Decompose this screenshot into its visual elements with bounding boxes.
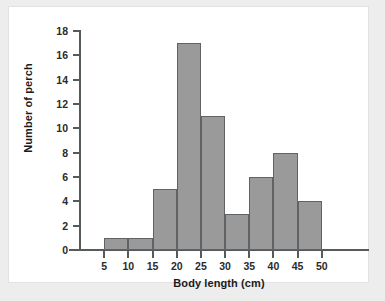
histogram-bar [153, 189, 177, 250]
y-tick-mark [73, 103, 80, 105]
histogram-bar [104, 238, 128, 250]
y-tick-label: 4 [28, 196, 68, 206]
y-tick-mark [73, 249, 80, 251]
figure: 024681012141618 5101520253035404550 Body… [0, 0, 385, 301]
x-tick-mark [297, 251, 299, 258]
x-tick-mark [248, 251, 250, 258]
histogram-bar [249, 177, 273, 250]
histogram-bar [128, 238, 152, 250]
y-tick-mark [73, 79, 80, 81]
y-tick-label: 16 [28, 50, 68, 60]
plot-area [80, 31, 346, 250]
y-tick-mark [73, 152, 80, 154]
x-tick-mark [152, 251, 154, 258]
y-tick-mark [73, 176, 80, 178]
y-tick-mark [73, 200, 80, 202]
y-tick-label: 8 [28, 148, 68, 158]
x-tick-mark [103, 251, 105, 258]
y-tick-mark [73, 54, 80, 56]
x-tick-mark [200, 251, 202, 258]
y-tick-label: 2 [28, 221, 68, 231]
y-tick-label: 18 [28, 26, 68, 36]
x-tick-label: 50 [302, 261, 342, 272]
y-tick-mark [73, 225, 80, 227]
x-tick-mark [127, 251, 129, 258]
y-tick-label: 10 [28, 123, 68, 133]
y-tick-mark [73, 30, 80, 32]
x-tick-mark [176, 251, 178, 258]
histogram-bar [177, 43, 201, 250]
y-tick-label: 12 [28, 99, 68, 109]
x-axis-title: Body length (cm) [69, 277, 369, 289]
y-tick-mark [73, 127, 80, 129]
y-tick-label: 6 [28, 172, 68, 182]
y-tick-label: 14 [28, 75, 68, 85]
x-tick-mark [272, 251, 274, 258]
histogram-bar [225, 214, 249, 251]
histogram-bar [273, 153, 297, 250]
histogram-bar [201, 116, 225, 250]
x-tick-mark [224, 251, 226, 258]
chart-panel: 024681012141618 5101520253035404550 Body… [9, 7, 368, 282]
y-axis-title: Number of perch [22, 48, 34, 168]
x-tick-mark [321, 251, 323, 258]
y-tick-label: 0 [28, 245, 68, 255]
histogram-bar [298, 201, 322, 250]
